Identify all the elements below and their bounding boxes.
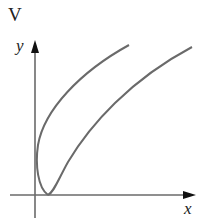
x-axis-arrow-icon xyxy=(183,191,196,199)
y-axis-arrow-icon xyxy=(31,40,39,53)
curve-lower-branch xyxy=(48,47,192,195)
figure: V y x xyxy=(0,0,201,220)
curve-upper-branch xyxy=(37,45,129,195)
plot-canvas xyxy=(0,0,201,220)
